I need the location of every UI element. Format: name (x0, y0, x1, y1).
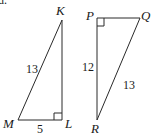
triangle-klm: K L M 13 5 (2, 3, 72, 135)
side-length-ml: 5 (37, 122, 43, 135)
vertex-label-p: P (85, 8, 94, 23)
triangle-pqr-outline (97, 18, 140, 120)
triangle-pqr: P Q R 12 13 (82, 8, 151, 135)
vertex-label-k: K (55, 3, 66, 18)
triangles-diagram: d. K L M 13 5 P Q R 12 13 (0, 0, 154, 135)
right-angle-marker-p (97, 18, 104, 26)
side-length-pr: 12 (82, 60, 94, 74)
side-length-qr: 13 (123, 78, 135, 92)
vertex-label-r: R (90, 121, 99, 135)
vertex-label-l: L (64, 116, 72, 131)
vertex-label-q: Q (141, 8, 151, 23)
triangle-klm-outline (18, 20, 62, 120)
right-angle-marker-l (54, 113, 62, 120)
part-label: d. (0, 0, 7, 7)
side-length-mk: 13 (26, 62, 38, 76)
vertex-label-m: M (2, 116, 15, 131)
